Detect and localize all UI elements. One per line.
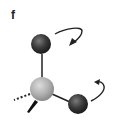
arrowhead-right-icon — [94, 79, 100, 85]
arrowhead-top-icon — [69, 38, 77, 46]
central-atom — [30, 77, 54, 101]
dashed-bond — [14, 94, 30, 100]
rotation-arrow-right-icon — [91, 82, 104, 101]
molecule-diagram — [0, 0, 118, 121]
wedge-bond — [27, 100, 38, 113]
bond-central-right — [52, 94, 70, 102]
top-atom — [31, 34, 51, 54]
rotation-arrow-top-icon — [55, 28, 82, 43]
right-atom — [68, 94, 88, 114]
